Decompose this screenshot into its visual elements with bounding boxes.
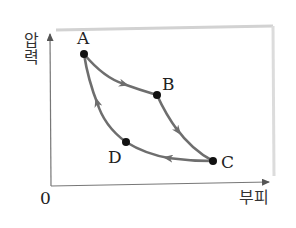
point-b — [153, 91, 161, 99]
pv-diagram: 압 력 0 부피 A B C D — [0, 0, 296, 228]
point-a — [80, 50, 88, 58]
y-axis-label-char-2: 력 — [22, 50, 40, 67]
origin-label: 0 — [40, 190, 51, 207]
x-axis — [51, 182, 269, 186]
curve-b-to-c — [157, 95, 178, 131]
point-c — [209, 157, 217, 165]
x-axis-label: 부피 — [239, 190, 269, 207]
curve-d-to-a — [97, 102, 126, 142]
point-label-a: A — [77, 30, 89, 47]
point-d — [122, 138, 130, 146]
y-axis-label: 압 력 — [22, 33, 40, 67]
state-points — [80, 50, 217, 165]
point-label-b: B — [162, 76, 175, 93]
background-frame — [56, 26, 274, 176]
cycle-curves — [84, 54, 213, 161]
point-label-d: D — [108, 149, 122, 166]
point-label-c: C — [221, 154, 234, 171]
y-axis — [50, 34, 51, 186]
